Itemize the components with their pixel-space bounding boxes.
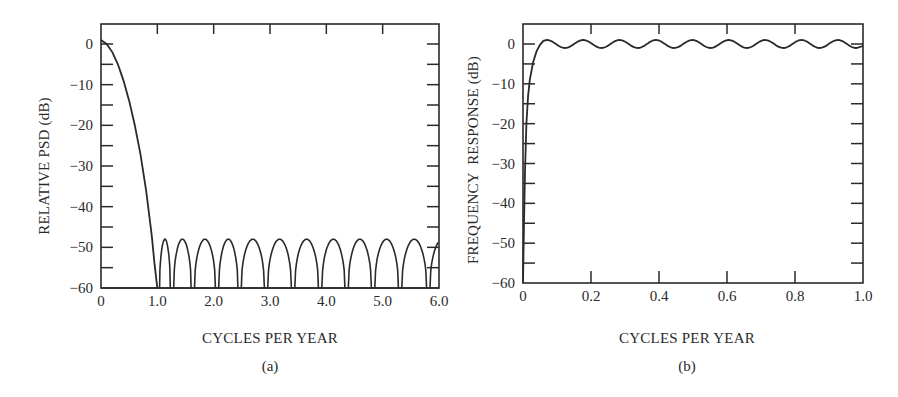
- response-line: [523, 40, 863, 283]
- x-tick-label: 0.8: [786, 288, 805, 304]
- x-tick-label: 4.0: [317, 293, 336, 309]
- sidelobe: [219, 239, 238, 288]
- y-tick-label: −60: [492, 275, 515, 291]
- y-tick-label: −20: [70, 117, 93, 133]
- panel-b-x-axis-title: CYCLES PER YEAR: [619, 330, 755, 346]
- sidelobe: [322, 239, 345, 288]
- panel-a-caption: (a): [262, 358, 279, 375]
- x-tick-label: 0: [97, 293, 105, 309]
- panel-a-x-axis-title: CYCLES PER YEAR: [202, 330, 338, 346]
- sidelobe: [295, 239, 319, 288]
- figure: 01.02.03.04.05.06.0 0−10−20−30−40−50−60 …: [0, 0, 898, 397]
- y-tick-label: −30: [70, 158, 93, 174]
- y-tick-label: −50: [492, 235, 515, 251]
- x-tick-label: 3.0: [261, 293, 280, 309]
- sidelobe: [430, 242, 438, 288]
- panel-b-y-axis-title: FREQUENCY RESPONSE (dB): [465, 56, 482, 264]
- sidelobe: [195, 239, 216, 288]
- panel-a-frame: [101, 24, 439, 288]
- x-tick-label: 1.0: [854, 288, 873, 304]
- sidelobe: [174, 239, 191, 288]
- panel-b-ticks: [523, 24, 863, 283]
- y-tick-label: −40: [70, 199, 93, 215]
- y-tick-label: −40: [492, 195, 515, 211]
- y-tick-label: −20: [492, 116, 515, 132]
- y-tick-label: −30: [492, 156, 515, 172]
- sidelobe: [241, 239, 264, 288]
- x-tick-label: 0.6: [718, 288, 737, 304]
- sidelobe: [348, 239, 371, 288]
- x-tick-label: 1.0: [148, 293, 167, 309]
- panel-b-caption: (b): [678, 358, 696, 375]
- sidelobe: [160, 239, 171, 288]
- y-tick-label: −10: [492, 76, 515, 92]
- y-tick-label: 0: [86, 36, 94, 52]
- sidelobe: [268, 239, 292, 288]
- main-lobe: [101, 40, 157, 288]
- x-tick-label: 6.0: [430, 293, 449, 309]
- x-tick-label: 0.4: [650, 288, 669, 304]
- sidelobe: [402, 239, 427, 288]
- panel-b-frequency-response-chart: 00.20.40.60.81.0 0−10−20−30−40−50−60 CYC…: [465, 24, 872, 375]
- y-tick-label: 0: [508, 36, 516, 52]
- x-tick-label: 5.0: [373, 293, 392, 309]
- psd-curve: [101, 40, 439, 288]
- sidelobe: [375, 239, 399, 288]
- panel-a-x-tick-labels: 01.02.03.04.05.06.0: [97, 293, 448, 309]
- panel-b-y-tick-labels: 0−10−20−30−40−50−60: [492, 36, 515, 291]
- panel-b-frame: [523, 24, 863, 283]
- panel-a-y-tick-labels: 0−10−20−30−40−50−60: [70, 36, 93, 296]
- y-tick-label: −50: [70, 239, 93, 255]
- y-tick-label: −10: [70, 77, 93, 93]
- y-tick-label: −60: [70, 280, 93, 296]
- x-tick-label: 2.0: [204, 293, 223, 309]
- panel-b-x-tick-labels: 00.20.40.60.81.0: [519, 288, 872, 304]
- panel-a-y-axis-title: RELATIVE PSD (dB): [36, 97, 53, 235]
- x-tick-label: 0.2: [582, 288, 601, 304]
- x-tick-label: 0: [519, 288, 527, 304]
- panel-a-psd-chart: 01.02.03.04.05.06.0 0−10−20−30−40−50−60 …: [36, 24, 448, 375]
- frequency-response-curve: [523, 40, 863, 283]
